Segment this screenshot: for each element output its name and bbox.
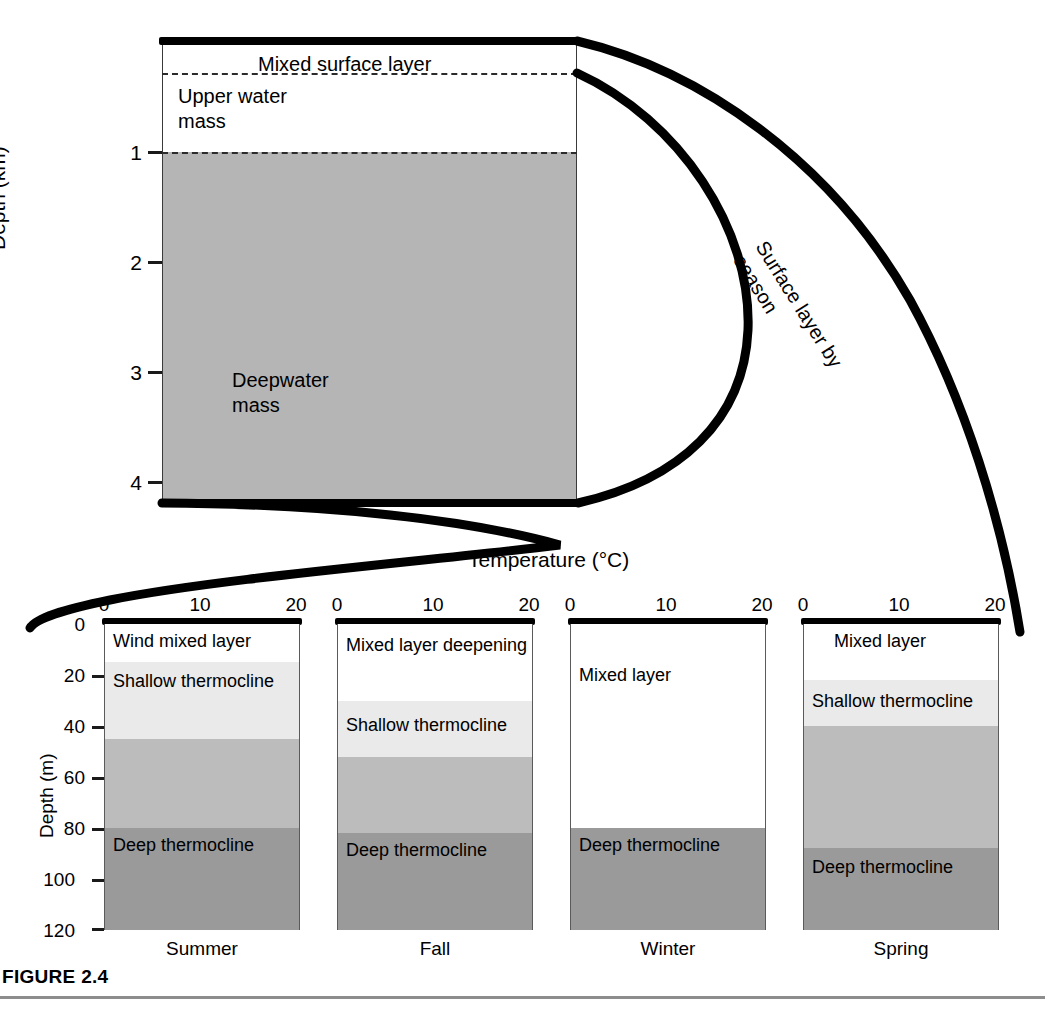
spring-label-deep-thermocline: Deep thermocline — [812, 856, 953, 878]
main-depth-axis-title: Depth (km) — [0, 146, 10, 250]
main-ytick-mark-1 — [148, 151, 162, 154]
depth-m-tick-40 — [92, 726, 104, 729]
summer-xtick-0: 0 — [89, 594, 119, 616]
fall-label-mixed-layer-deepening: Mixed layer deepening — [346, 634, 527, 656]
summer-xtick-20: 20 — [281, 594, 311, 616]
spring-label-shallow-thermocline: Shallow thermocline — [812, 690, 973, 712]
season-name-summer: Summer — [104, 938, 300, 960]
upper-water-mass-divider — [162, 152, 577, 154]
depth-m-tick-60 — [92, 777, 104, 780]
season-name-fall: Fall — [337, 938, 533, 960]
main-ytick-label-4: 4 — [108, 471, 142, 495]
figure-caption: FIGURE 2.4 — [2, 966, 108, 988]
depth-m-tick-20 — [92, 675, 104, 678]
mixed-surface-layer-label: Mixed surface layer — [258, 52, 431, 77]
depth-m-tick-80 — [92, 828, 104, 831]
winter-xtick-20: 20 — [747, 594, 777, 616]
depth-m-label-0: 0 — [43, 614, 85, 636]
spring-label-mixed-layer: Mixed layer — [834, 630, 926, 652]
spring-band-mid — [804, 726, 998, 848]
winter-label-mixed-layer: Mixed layer — [579, 664, 671, 686]
figure-container: Mixed surface layer Upper water mass Dee… — [0, 0, 1045, 1019]
temperature-axis-label: Temperature (°C) — [468, 548, 629, 572]
main-ytick-mark-4 — [148, 481, 162, 484]
depth-m-tick-100 — [92, 879, 104, 882]
summer-label-deep-thermocline: Deep thermocline — [113, 834, 254, 856]
spring-xtick-0: 0 — [788, 594, 818, 616]
main-panel-top-rule — [159, 37, 580, 45]
main-ytick-label-1: 1 — [108, 141, 142, 165]
winter-band-mixed-layer — [571, 624, 765, 828]
winter-xtick-10: 10 — [651, 594, 681, 616]
winter-xtick-0: 0 — [555, 594, 585, 616]
depth-m-label-120: 120 — [33, 920, 75, 942]
depth-m-label-40: 40 — [43, 716, 85, 738]
main-panel-bottom-rule — [159, 499, 580, 507]
main-ytick-label-3: 3 — [108, 361, 142, 385]
fall-label-deep-thermocline: Deep thermocline — [346, 839, 487, 861]
depth-m-tick-120 — [92, 928, 104, 931]
depth-m-label-100: 100 — [33, 869, 75, 891]
depth-m-label-80: 80 — [43, 818, 85, 840]
surface-layer-season-annotation: Surface layer by season — [728, 236, 883, 442]
depth-m-label-20: 20 — [43, 665, 85, 687]
main-ytick-mark-3 — [148, 371, 162, 374]
fall-xtick-20: 20 — [514, 594, 544, 616]
spring-xtick-20: 20 — [980, 594, 1010, 616]
season-panel-spring: Mixed layer Shallow thermocline Deep the… — [803, 624, 999, 930]
season-name-spring: Spring — [803, 938, 999, 960]
deepwater-mass-band — [163, 152, 576, 503]
season-panel-fall: Mixed layer deepening Shallow thermoclin… — [337, 624, 533, 930]
summer-xtick-10: 10 — [185, 594, 215, 616]
deepwater-mass-label: Deepwater mass — [232, 368, 329, 418]
winter-label-deep-thermocline: Deep thermocline — [579, 834, 720, 856]
main-ytick-label-2: 2 — [108, 251, 142, 275]
caption-divider-rule — [0, 996, 1045, 999]
summer-label-shallow-thermocline: Shallow thermocline — [113, 670, 274, 692]
fall-xtick-0: 0 — [322, 594, 352, 616]
season-panel-winter: Mixed layer Deep thermocline — [570, 624, 766, 930]
upper-water-mass-label: Upper water mass — [178, 84, 287, 134]
summer-label-wind-mixed-layer: Wind mixed layer — [113, 630, 251, 652]
spring-xtick-10: 10 — [884, 594, 914, 616]
main-ytick-mark-2 — [148, 261, 162, 264]
depth-m-label-60: 60 — [43, 767, 85, 789]
fall-label-shallow-thermocline: Shallow thermocline — [346, 714, 507, 736]
summer-band-mid — [105, 739, 299, 828]
fall-xtick-10: 10 — [418, 594, 448, 616]
season-name-winter: Winter — [570, 938, 766, 960]
season-panel-summer: Wind mixed layer Shallow thermocline Dee… — [104, 624, 300, 930]
fall-band-mid — [338, 757, 532, 833]
